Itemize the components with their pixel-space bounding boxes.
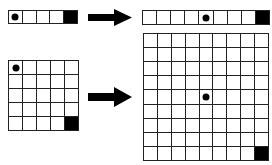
grid-cell — [51, 75, 65, 89]
agent-dot-icon — [12, 64, 19, 71]
grid-cell — [200, 34, 214, 48]
grid-cell — [144, 48, 158, 62]
grid-cell — [158, 105, 172, 119]
grid-cell — [186, 62, 200, 76]
grid-cell — [255, 133, 269, 147]
grid-cell — [23, 103, 37, 117]
grid-cell — [186, 90, 200, 104]
grid-cell — [241, 105, 255, 119]
grid-cell — [255, 76, 269, 90]
grid-cell — [65, 89, 79, 103]
grid-cell — [186, 76, 200, 90]
grid-cell — [186, 133, 200, 147]
grid-cell — [214, 11, 228, 25]
grid-cell — [144, 119, 158, 133]
grid-cell — [144, 133, 158, 147]
grid-cell — [213, 133, 227, 147]
grid-cell — [51, 89, 65, 103]
grid-cell — [213, 62, 227, 76]
grid-cell — [9, 89, 23, 103]
grid-cell — [200, 147, 214, 161]
grid-cell — [172, 105, 186, 119]
goal-cell — [256, 11, 270, 25]
grid-cell — [37, 103, 51, 117]
top-left-strip — [8, 10, 78, 24]
goal-cell — [64, 11, 78, 24]
grid-cell — [158, 133, 172, 147]
grid-cell — [227, 34, 241, 48]
start-cell — [200, 90, 214, 104]
grid-cell — [200, 119, 214, 133]
grid-cell — [158, 147, 172, 161]
grid-cell — [185, 11, 199, 25]
grid-cell — [158, 34, 172, 48]
grid-cell — [213, 48, 227, 62]
grid-cell — [241, 48, 255, 62]
grid-cell — [213, 105, 227, 119]
grid-cell — [37, 75, 51, 89]
grid-cell — [186, 34, 200, 48]
grid-cell — [144, 147, 158, 161]
grid-cell — [37, 117, 51, 131]
start-cell — [9, 61, 23, 75]
grid-cell — [23, 89, 37, 103]
grid-cell — [200, 133, 214, 147]
grid-cell — [158, 119, 172, 133]
grid-cell — [186, 147, 200, 161]
grid-cell — [158, 62, 172, 76]
grid-cell — [213, 119, 227, 133]
grid-cell — [144, 62, 158, 76]
grid-cell — [227, 76, 241, 90]
grid-cell — [172, 147, 186, 161]
grid-cell — [241, 119, 255, 133]
grid-cell — [37, 11, 51, 24]
grid-cell — [213, 34, 227, 48]
grid-cell — [9, 103, 23, 117]
grid-cell — [9, 117, 23, 131]
arrow-right-icon — [88, 87, 132, 107]
grid-cell — [144, 34, 158, 48]
grid-cell — [227, 48, 241, 62]
grid-cell — [144, 76, 158, 90]
grid-cell — [227, 119, 241, 133]
bottom-right-grid — [143, 33, 269, 161]
grid-cell — [65, 61, 79, 75]
grid-cell — [200, 76, 214, 90]
grid-cell — [171, 11, 185, 25]
grid-cell — [65, 75, 79, 89]
grid-cell — [200, 105, 214, 119]
grid-cell — [186, 119, 200, 133]
grid-cell — [227, 62, 241, 76]
grid-cell — [50, 11, 64, 24]
grid-cell — [200, 48, 214, 62]
grid-cell — [51, 61, 65, 75]
arrow-right-icon — [88, 9, 132, 26]
grid-cell — [241, 34, 255, 48]
grid-cell — [172, 90, 186, 104]
grid-cell — [213, 90, 227, 104]
grid-cell — [213, 147, 227, 161]
grid-cell — [172, 62, 186, 76]
goal-cell — [255, 147, 269, 161]
grid-cell — [65, 103, 79, 117]
grid-cell — [186, 105, 200, 119]
agent-dot-icon — [202, 14, 209, 21]
grid-cell — [144, 90, 158, 104]
grid-cell — [172, 48, 186, 62]
grid-cell — [51, 103, 65, 117]
grid-cell — [200, 62, 214, 76]
agent-dot-icon — [202, 93, 209, 100]
grid-cell — [242, 11, 256, 25]
bottom-left-grid — [8, 60, 79, 131]
grid-cell — [157, 11, 171, 25]
grid-cell — [172, 133, 186, 147]
grid-cell — [37, 89, 51, 103]
grid-cell — [23, 11, 37, 24]
grid-cell — [23, 61, 37, 75]
grid-cell — [227, 90, 241, 104]
grid-cell — [241, 90, 255, 104]
top-right-strip — [142, 10, 270, 25]
grid-cell — [241, 147, 255, 161]
grid-cell — [172, 119, 186, 133]
grid-cell — [23, 117, 37, 131]
